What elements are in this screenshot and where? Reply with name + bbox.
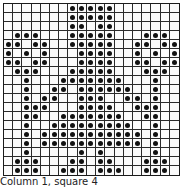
open-square (124, 148, 133, 157)
filled-square (68, 166, 77, 175)
filled-square (151, 148, 160, 157)
open-square (115, 22, 124, 31)
filled-square (4, 49, 13, 58)
open-square (142, 49, 151, 58)
open-square (124, 40, 133, 49)
open-square (170, 22, 179, 31)
open-square (142, 76, 151, 85)
filled-square (105, 13, 114, 22)
filled-square (59, 130, 68, 139)
open-square (41, 112, 50, 121)
filled-square (115, 130, 124, 139)
filled-square (50, 85, 59, 94)
filled-square (151, 157, 160, 166)
open-square (115, 94, 124, 103)
open-square (4, 31, 13, 40)
open-square (59, 94, 68, 103)
filled-square (32, 58, 41, 67)
filled-square (151, 31, 160, 40)
filled-square (105, 40, 114, 49)
open-square (115, 13, 124, 22)
filled-square (13, 58, 22, 67)
filled-square (124, 130, 133, 139)
open-square (32, 94, 41, 103)
open-square (124, 4, 133, 13)
open-square (41, 22, 50, 31)
open-square (124, 58, 133, 67)
filled-square (68, 112, 77, 121)
filled-square (105, 67, 114, 76)
filled-square (133, 40, 142, 49)
filled-square (68, 40, 77, 49)
open-square (133, 13, 142, 22)
open-square (50, 112, 59, 121)
filled-square (41, 103, 50, 112)
open-square (4, 76, 13, 85)
open-square (161, 76, 170, 85)
open-square (133, 112, 142, 121)
open-square (161, 121, 170, 130)
filled-square (68, 121, 77, 130)
filled-square (22, 49, 31, 58)
filled-square (161, 40, 170, 49)
filled-square (170, 49, 179, 58)
open-square (41, 67, 50, 76)
filled-square (133, 49, 142, 58)
filled-square (96, 112, 105, 121)
filled-square (41, 40, 50, 49)
open-square (32, 121, 41, 130)
filled-square (50, 130, 59, 139)
open-square (13, 22, 22, 31)
open-square (4, 103, 13, 112)
filled-square (78, 40, 87, 49)
filled-square (96, 4, 105, 13)
filled-square (151, 166, 160, 175)
open-square (59, 40, 68, 49)
open-square (124, 76, 133, 85)
filled-square (32, 166, 41, 175)
filled-square (142, 40, 151, 49)
filled-square (142, 103, 151, 112)
filled-square (68, 22, 77, 31)
open-square (87, 148, 96, 157)
filled-square (87, 139, 96, 148)
filled-square (87, 67, 96, 76)
open-square (59, 49, 68, 58)
open-square (4, 166, 13, 175)
filled-square (151, 103, 160, 112)
filled-square (105, 85, 114, 94)
filled-square (96, 85, 105, 94)
filled-square (161, 157, 170, 166)
filled-square (59, 166, 68, 175)
filled-square (161, 166, 170, 175)
open-square (59, 67, 68, 76)
filled-square (105, 166, 114, 175)
open-square (68, 94, 77, 103)
filled-square (96, 121, 105, 130)
open-square (4, 22, 13, 31)
filled-square (13, 157, 22, 166)
open-square (170, 76, 179, 85)
filled-square (105, 76, 114, 85)
filled-square (32, 67, 41, 76)
filled-square (142, 31, 151, 40)
open-square (142, 85, 151, 94)
filled-square (105, 157, 114, 166)
open-square (170, 67, 179, 76)
chart-caption: Column 1, square 4 (0, 176, 98, 188)
open-square (161, 85, 170, 94)
filled-square (78, 94, 87, 103)
open-square (4, 121, 13, 130)
filled-square (22, 121, 31, 130)
filled-square (68, 67, 77, 76)
filled-square (41, 58, 50, 67)
open-square (22, 22, 31, 31)
filled-square (151, 76, 160, 85)
filled-square (133, 139, 142, 148)
open-square (50, 76, 59, 85)
open-square (41, 85, 50, 94)
open-square (13, 121, 22, 130)
filled-square (124, 85, 133, 94)
open-square (41, 4, 50, 13)
open-square (170, 4, 179, 13)
